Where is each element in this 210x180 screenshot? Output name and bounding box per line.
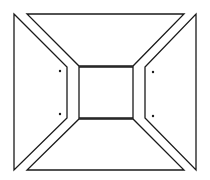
left-lower-dot [59,113,61,115]
right-lower-dot [152,115,154,117]
right-trapezoid [145,14,196,170]
center-square [79,67,133,118]
top-trapezoid [27,14,184,66]
right-upper-dot [152,71,154,73]
left-upper-dot [59,70,61,72]
bottom-trapezoid [27,119,184,170]
left-trapezoid [14,14,67,170]
frame-net-diagram [0,0,210,180]
